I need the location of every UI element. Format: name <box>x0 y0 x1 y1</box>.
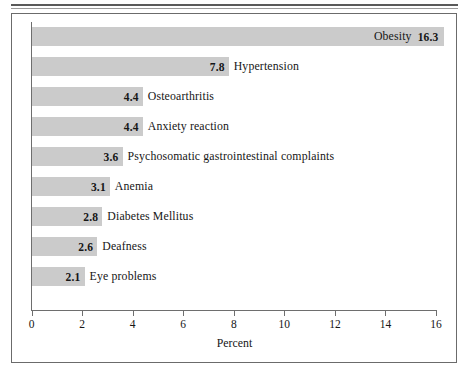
bar-label: Osteoarthritis <box>148 89 214 104</box>
x-axis-tick <box>385 310 386 316</box>
bar-label: Eye problems <box>90 269 157 284</box>
bar: 2.8 <box>32 207 103 226</box>
bar: 2.1 <box>32 267 85 286</box>
bar-label: Obesity <box>374 29 412 44</box>
x-axis-tick-label: 2 <box>79 318 85 330</box>
x-axis-tick <box>234 310 235 316</box>
bar-value-label: 7.8 <box>210 61 225 73</box>
bar-row: 4.4Osteoarthritis <box>0 87 214 106</box>
x-axis-tick <box>183 310 184 316</box>
x-axis-tick-label: 16 <box>430 318 442 330</box>
bar-label: Anxiety reaction <box>148 119 229 134</box>
bar: 4.4 <box>32 117 143 136</box>
bar-row: 3.1Anemia <box>0 177 153 196</box>
bar-row: 3.6Psychosomatic gastrointestinal compla… <box>0 147 334 166</box>
bar: 4.4 <box>32 87 143 106</box>
x-axis-tick <box>32 310 33 316</box>
bar-value-label: 4.4 <box>124 121 139 133</box>
bar: 7.8 <box>32 57 229 76</box>
x-axis-title: Percent <box>0 336 469 351</box>
bar: Obesity16.3 <box>32 27 444 46</box>
bar-value-label: 2.1 <box>66 271 81 283</box>
x-axis-tick-label: 0 <box>29 318 35 330</box>
bar-row: 4.4Anxiety reaction <box>0 117 229 136</box>
bar-row: 2.8Diabetes Mellitus <box>0 207 193 226</box>
x-axis-tick <box>335 310 336 316</box>
bar-label: Psychosomatic gastrointestinal complaint… <box>128 149 335 164</box>
bar-label: Diabetes Mellitus <box>107 209 193 224</box>
bar-row: Obesity16.3 <box>0 27 444 46</box>
bar-row: 2.6Deafness <box>0 237 147 256</box>
bar-value-label: 16.3 <box>418 31 439 43</box>
bar-chart-figure: Obesity16.37.8Hypertension4.4Osteoarthri… <box>0 0 469 375</box>
x-axis-tick-label: 8 <box>231 318 237 330</box>
x-axis-tick-label: 10 <box>279 318 291 330</box>
x-axis-tick <box>284 310 285 316</box>
bar: 2.6 <box>32 237 98 256</box>
bar-value-label: 4.4 <box>124 91 139 103</box>
bar: 3.1 <box>32 177 110 196</box>
bar-label: Hypertension <box>234 59 299 74</box>
bar: 3.6 <box>32 147 123 166</box>
bar-label: Anemia <box>115 179 153 194</box>
bar-label: Deafness <box>102 239 146 254</box>
x-axis-tick <box>133 310 134 316</box>
bar-value-label: 3.1 <box>91 181 106 193</box>
bar-value-label: 2.8 <box>83 211 98 223</box>
bar-row: 2.1Eye problems <box>0 267 157 286</box>
top-rule-secondary <box>11 8 458 9</box>
x-axis-tick-label: 4 <box>130 318 136 330</box>
x-axis-tick-label: 12 <box>329 318 341 330</box>
x-axis-tick <box>436 310 437 316</box>
bar-row: 7.8Hypertension <box>0 57 299 76</box>
top-rule <box>11 4 458 6</box>
bar-value-label: 3.6 <box>104 151 119 163</box>
x-axis-tick-label: 14 <box>380 318 392 330</box>
x-axis-tick-label: 6 <box>180 318 186 330</box>
x-axis-tick <box>82 310 83 316</box>
bar-value-label: 2.6 <box>78 241 93 253</box>
